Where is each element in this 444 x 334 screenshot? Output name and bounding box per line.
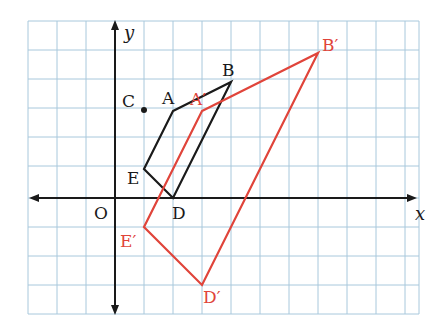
label-c: C bbox=[122, 91, 135, 111]
label-b: B bbox=[222, 60, 235, 80]
label-d: D bbox=[172, 203, 186, 223]
label-a: A bbox=[161, 88, 175, 108]
y-axis-label: y bbox=[123, 22, 135, 43]
x-axis-label: x bbox=[415, 203, 425, 224]
center-point-c bbox=[141, 107, 147, 113]
label-e: E bbox=[127, 168, 139, 188]
coordinate-plane: y x O C A B E D A′ B′ E′ D′ bbox=[0, 0, 444, 334]
label-b-prime: B′ bbox=[322, 35, 338, 55]
label-e-prime: E′ bbox=[120, 231, 136, 251]
origin-label: O bbox=[94, 203, 108, 223]
label-d-prime: D′ bbox=[203, 287, 221, 307]
label-a-prime: A′ bbox=[189, 89, 206, 109]
